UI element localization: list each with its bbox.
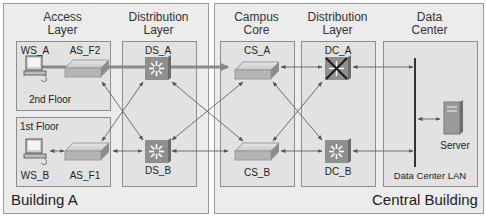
label-dc-b: DC_B <box>318 166 358 177</box>
server-icon <box>444 100 463 134</box>
label-floor-1: 1st Floor <box>20 121 66 132</box>
multilayer-switch-dc-b-icon <box>325 138 351 163</box>
label-ws-a: WS_A <box>20 45 50 56</box>
label-ds-a: DS_A <box>138 45 178 56</box>
label-cs-b: CS_B <box>237 167 277 178</box>
multilayer-switch-ds-a-icon <box>145 55 171 80</box>
workstation-ws-a-icon <box>24 56 47 82</box>
multilayer-switch-dc-a-failed-icon <box>325 55 351 80</box>
label-data-center-lan: Data Center LAN <box>386 170 474 181</box>
switch-as-f1-icon <box>65 143 109 160</box>
label-floor-2: 2nd Floor <box>24 94 76 105</box>
label-server: Server <box>437 140 473 151</box>
topology-drawing <box>0 0 486 219</box>
label-ws-b: WS_B <box>20 170 50 181</box>
label-as-f1: AS_F1 <box>65 170 105 181</box>
switch-cs-b-icon <box>235 143 279 160</box>
switch-cs-a-icon <box>235 62 279 79</box>
switch-as-f2-icon <box>65 60 109 77</box>
label-cs-a: CS_A <box>237 45 277 56</box>
workstation-ws-b-icon <box>24 139 47 165</box>
building-a-label: Building A <box>11 191 78 208</box>
redundant-links <box>50 67 440 151</box>
label-ds-b: DS_B <box>138 165 178 176</box>
multilayer-switch-ds-b-icon <box>145 138 171 163</box>
central-building-label: Central Building <box>372 191 478 208</box>
label-as-f2: AS_F2 <box>65 45 105 56</box>
label-dc-a: DC_A <box>318 45 358 56</box>
